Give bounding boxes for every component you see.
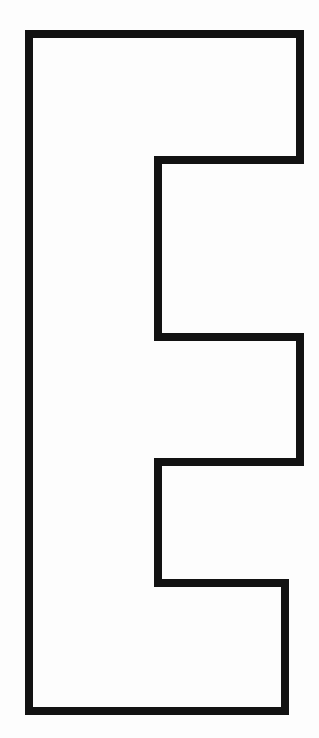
block-letter-e-figure: Thick black outline of a block capital l… [0, 0, 319, 738]
canvas-background [0, 0, 319, 738]
drawing-canvas: Block letter E outline Thick black outli… [0, 0, 319, 738]
